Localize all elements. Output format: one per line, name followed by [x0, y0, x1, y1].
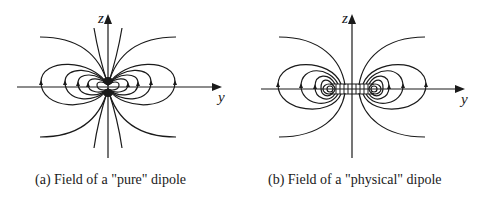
- panel-pure-dipole: z y (a) Field of a "pure" dipole: [0, 0, 241, 197]
- pure-dipole-field-diagram: [0, 0, 241, 170]
- axis-arrowheads: [39, 14, 222, 97]
- caption-pure-dipole: (a) Field of a "pure" dipole: [35, 172, 186, 188]
- z-axis-label: z: [342, 10, 348, 27]
- panel-physical-dipole: z y (b) Field of a "physical" dipole: [241, 0, 482, 197]
- physical-dipole-field-diagram: [241, 0, 482, 170]
- z-arrow-icon: [104, 14, 112, 24]
- y-axis-label: y: [218, 89, 225, 106]
- z-axis-label: z: [98, 10, 104, 27]
- z-arrow-icon: [348, 14, 356, 24]
- caption-physical-dipole: (b) Field of a "physical" dipole: [268, 172, 442, 188]
- y-axis-label: y: [461, 91, 468, 108]
